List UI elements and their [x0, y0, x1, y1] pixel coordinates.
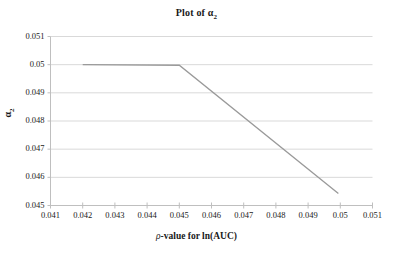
y-tick-label: 0.051	[5, 32, 45, 41]
tick-marks-group	[48, 37, 373, 209]
y-tick-label: 0.048	[5, 116, 45, 125]
y-tick-label: 0.045	[5, 201, 45, 210]
chart-container: Plot of α2 α2 ρ-value for ln(AUC) 0.0450…	[0, 0, 393, 253]
data-series-group	[83, 65, 339, 194]
gridlines-group	[51, 37, 373, 206]
data-series-line	[83, 65, 339, 194]
y-tick-label: 0.046	[5, 172, 45, 181]
y-tick-label: 0.047	[5, 144, 45, 153]
x-tick-label: 0.051	[352, 211, 393, 220]
y-tick-label: 0.049	[5, 88, 45, 97]
y-tick-label: 0.05	[5, 60, 45, 69]
